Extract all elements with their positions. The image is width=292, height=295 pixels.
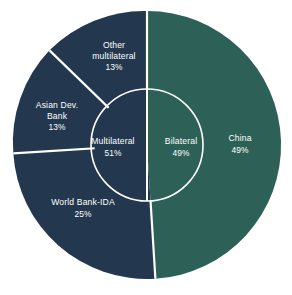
label-asian-dev-bank-line1: Asian Dev. xyxy=(36,100,78,110)
label-world-bank-ida-line1: World Bank-IDA xyxy=(51,197,115,207)
label-bilateral-pct: 49% xyxy=(172,148,190,158)
pie-chart: Other multilateral 13% Asian Dev. Bank 1… xyxy=(0,0,292,295)
label-multilateral-pct: 51% xyxy=(104,148,122,158)
label-other-multilateral-line2: multilateral xyxy=(92,51,135,61)
label-china-pct: 49% xyxy=(231,145,249,155)
label-china-line1: China xyxy=(228,133,251,143)
label-asian-dev-bank-line2: Bank xyxy=(47,111,68,121)
label-world-bank-ida-pct: 25% xyxy=(74,209,92,219)
pie-chart-svg: Other multilateral 13% Asian Dev. Bank 1… xyxy=(0,0,292,295)
label-bilateral-line1: Bilateral xyxy=(165,136,197,146)
label-other-multilateral-pct: 13% xyxy=(105,62,123,72)
label-asian-dev-bank-pct: 13% xyxy=(48,122,66,132)
label-multilateral-line1: Multilateral xyxy=(91,136,134,146)
label-other-multilateral-line1: Other xyxy=(103,40,125,50)
